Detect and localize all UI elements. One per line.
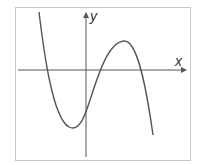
function-graph: x y [0, 0, 199, 165]
y-axis-label: y [89, 8, 98, 24]
x-axis-label: x [174, 53, 183, 69]
